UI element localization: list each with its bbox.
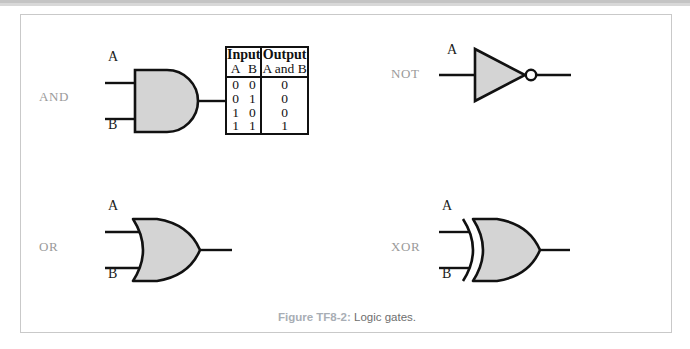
table-row: 0 1 0	[226, 92, 308, 106]
figure-caption-text: Logic gates.	[354, 311, 416, 323]
cell-input-b: 1	[244, 92, 261, 106]
pin-label-b-xor: B	[442, 266, 451, 282]
xor-gate-symbol: A B	[439, 214, 579, 286]
truth-table-and: Input Output A B A and B 0 0 0	[225, 46, 309, 135]
page-edge-band	[0, 0, 690, 6]
table-row: 1 0 0	[226, 106, 308, 120]
cell-output: 0	[261, 106, 307, 120]
cell-input-b: 0	[244, 106, 261, 120]
gate-label-xor: XOR	[391, 239, 420, 255]
subheader-a-and: A	[226, 62, 244, 76]
table-header-row: Input Output	[226, 47, 308, 62]
cell-input-a: 1	[226, 106, 244, 120]
cell-input-a: 0	[226, 77, 244, 92]
table-row: 1 1 1	[226, 119, 308, 134]
cell-input-b: 0	[244, 77, 261, 92]
figure-caption-label: Figure TF8-2:	[278, 311, 351, 323]
page-edge-band-inner	[0, 0, 690, 3]
cell-input-a: 0	[226, 92, 244, 106]
table-row: 0 0 0	[226, 77, 308, 92]
gate-panel-or: OR A B Input Output A B A or	[21, 176, 351, 326]
pin-label-a-not: A	[447, 42, 457, 58]
gate-panel-and: AND A B Input Output A	[21, 21, 351, 176]
gate-label-and: AND	[39, 89, 69, 105]
pin-label-a-and: A	[108, 49, 118, 65]
cell-output: 0	[261, 77, 307, 92]
header-output-and: Output	[261, 47, 307, 62]
pin-label-b-or: B	[108, 266, 117, 282]
figure-caption: Figure TF8-2: Logic gates.	[21, 311, 673, 323]
not-gate-symbol: A	[439, 45, 589, 105]
or-gate-symbol: A B	[105, 214, 245, 286]
pin-label-a-or: A	[108, 198, 118, 214]
subheader-b-and: B	[244, 62, 261, 76]
cell-input-b: 1	[244, 119, 261, 134]
figure-frame: AND A B Input Output A	[20, 14, 672, 333]
pin-label-b-and: B	[108, 117, 117, 133]
cell-input-a: 1	[226, 119, 244, 134]
gate-label-not: NOT	[391, 66, 420, 82]
gate-label-or: OR	[39, 239, 58, 255]
and-gate-symbol: A B	[105, 65, 245, 137]
subheader-output-and: A and B	[261, 62, 307, 76]
gate-panel-xor: XOR A B Input Output A	[351, 176, 673, 326]
gate-panel-not: NOT A Input Output A	[351, 21, 673, 176]
cell-output: 0	[261, 92, 307, 106]
table-subheader-row: A B A and B	[226, 62, 308, 76]
header-input-and: Input	[226, 47, 261, 62]
pin-label-a-xor: A	[442, 198, 452, 214]
cell-output: 1	[261, 119, 307, 134]
